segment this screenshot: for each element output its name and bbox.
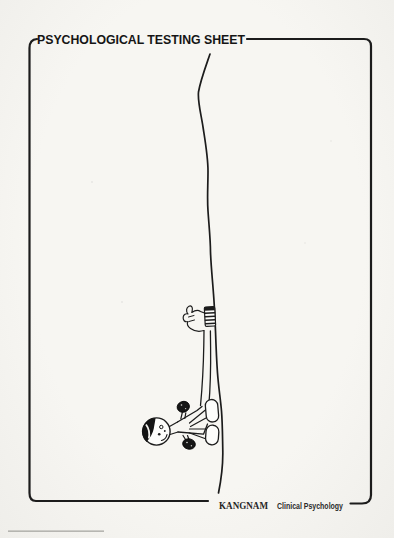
neck bbox=[170, 422, 179, 435]
speck bbox=[121, 301, 123, 303]
person-figure bbox=[142, 306, 219, 450]
frame-top-right-border bbox=[247, 39, 371, 504]
speck bbox=[91, 181, 93, 183]
fist-upper-blob bbox=[176, 400, 191, 414]
sheet-canvas: PSYCHOLOGICAL TESTING SHEET bbox=[0, 0, 394, 538]
nose-dot bbox=[164, 430, 166, 432]
fist-upper-speck2 bbox=[185, 408, 186, 409]
fist-lower bbox=[182, 438, 197, 451]
person-head bbox=[142, 418, 170, 445]
fist-lower-speck2 bbox=[191, 445, 192, 446]
wrist-cuff bbox=[204, 307, 215, 327]
hand-drawing bbox=[142, 54, 223, 493]
eye-left bbox=[158, 433, 161, 436]
footer-org: KANGNAM bbox=[219, 501, 268, 511]
fist-lower-blob bbox=[182, 438, 197, 451]
shoe-lower bbox=[205, 425, 219, 445]
footer-dept: Clinical Psychology bbox=[277, 501, 343, 511]
gripping-hand-outline bbox=[183, 306, 204, 331]
speck bbox=[304, 242, 306, 244]
page-title: PSYCHOLOGICAL TESTING SHEET bbox=[37, 33, 245, 47]
wrist-cuff-band bbox=[204, 307, 215, 311]
fist-upper bbox=[176, 400, 191, 414]
scanned-testing-sheet: PSYCHOLOGICAL TESTING SHEET bbox=[0, 0, 394, 538]
speck bbox=[330, 140, 332, 142]
fist-upper-speck bbox=[181, 404, 183, 406]
fist-lower-speck bbox=[186, 442, 188, 444]
shoe-upper bbox=[205, 399, 219, 422]
raised-arm bbox=[201, 331, 211, 406]
gripping-hand bbox=[183, 306, 204, 331]
gripping-hand-finger-lines bbox=[189, 316, 195, 322]
scan-artifact-line bbox=[8, 531, 104, 532]
